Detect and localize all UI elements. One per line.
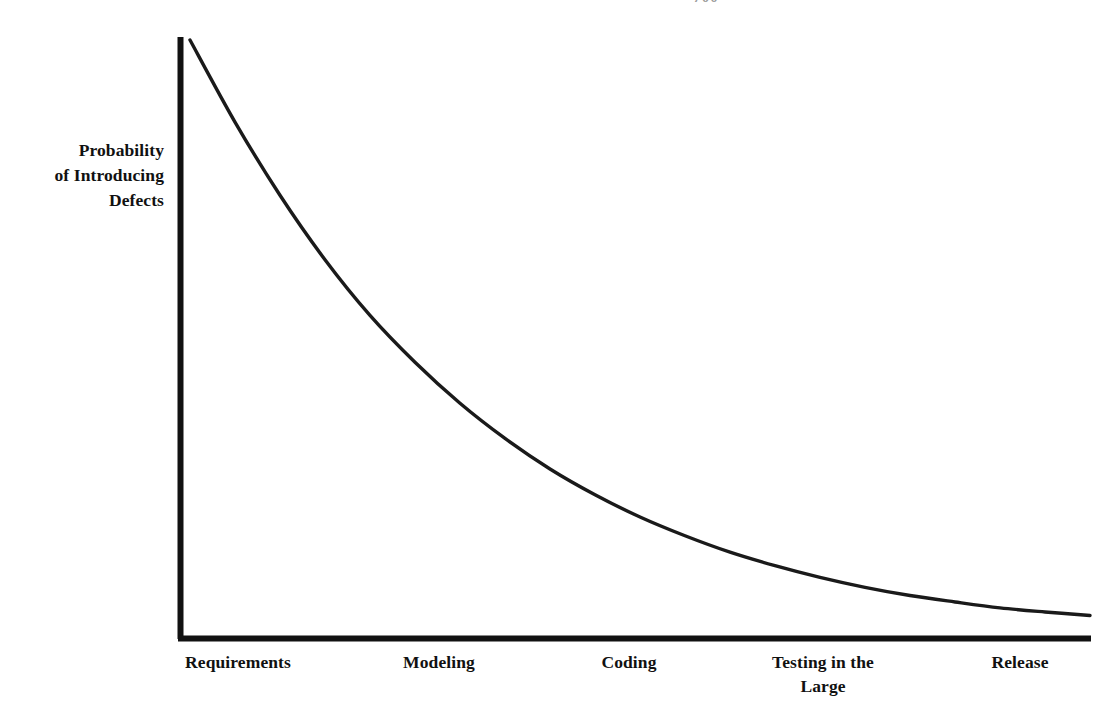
defect-probability-curve [190, 40, 1090, 615]
y-axis-title: Probability of Introducing Defects [18, 138, 164, 213]
x-tick-label-coding: Coding [549, 650, 709, 674]
defect-probability-figure: 700 Probability of Introducing Defects R… [0, 0, 1104, 718]
x-tick-label-testing-in-the-large: Testing in the Large [743, 650, 903, 698]
x-tick-label-release: Release [940, 650, 1100, 674]
chart-canvas [0, 0, 1104, 718]
x-tick-label-modeling: Modeling [359, 650, 519, 674]
x-tick-label-requirements: Requirements [158, 650, 318, 674]
